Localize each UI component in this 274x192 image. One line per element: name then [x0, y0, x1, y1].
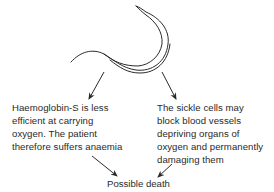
arrow-to-vessel-blockage — [162, 72, 176, 99]
effect-anaemia-text: Haemoglobin-S is less efficient at carry… — [12, 101, 122, 153]
text-line: The sickle cells may — [157, 101, 263, 114]
arrow-anaemia-to-outcome — [92, 156, 117, 176]
text-line: damaging them — [157, 153, 263, 166]
text-line: efficient at carrying — [12, 114, 122, 127]
text-line: oxygen. The patient — [12, 127, 122, 140]
text-line: oxygen and permanently — [157, 140, 263, 153]
sickle-cell-diagram: Haemoglobin-S is less efficient at carry… — [0, 0, 274, 192]
effect-vessel-blockage-text: The sickle cells may block blood vessels… — [157, 101, 263, 166]
text-line: Haemoglobin-S is less — [12, 101, 122, 114]
sickle-cell-icon — [71, 6, 170, 73]
arrow-to-anaemia — [89, 72, 104, 99]
text-line: block blood vessels — [157, 114, 263, 127]
outcome-label: Possible death — [107, 177, 170, 190]
text-line: therefore suffers anaemia — [12, 140, 122, 153]
text-line: depriving organs of — [157, 127, 263, 140]
